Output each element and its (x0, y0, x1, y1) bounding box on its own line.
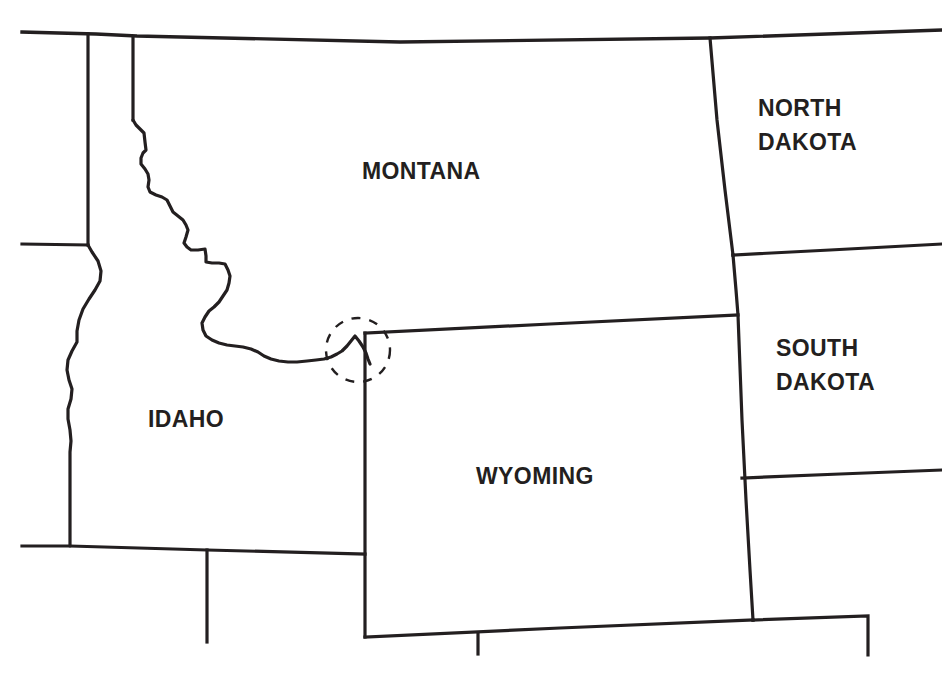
border-wyoming-south (365, 620, 753, 637)
border-montana-south-dakota-wyoming-east (733, 255, 753, 620)
border-north-dakota-south-dakota (733, 244, 942, 255)
border-oregon-north-stub (22, 244, 88, 245)
border-montana-north-dakota (710, 38, 733, 255)
state-label-south-dakota: SOUTH DAKOTA (776, 331, 875, 399)
state-outline-map: MONTANA NORTH DAKOTA SOUTH DAKOTA IDAHO … (0, 0, 942, 683)
border-idaho-south (22, 546, 365, 554)
state-label-wyoming: WYOMING (476, 462, 594, 492)
border-wyoming-north (365, 315, 738, 333)
border-idaho-montana-divide (133, 120, 370, 364)
state-label-north-dakota: NORTH DAKOTA (758, 91, 857, 159)
border-canada-north (22, 30, 942, 42)
border-idaho-west (67, 245, 101, 546)
border-south-dakota-nebraska (742, 470, 942, 478)
state-label-montana: MONTANA (362, 157, 481, 187)
tripoint-highlight-circle (326, 318, 390, 382)
border-nebraska-corner-stub (753, 616, 868, 655)
state-label-idaho: IDAHO (148, 405, 224, 435)
